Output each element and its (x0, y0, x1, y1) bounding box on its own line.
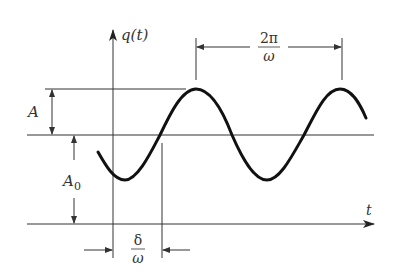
period-numerator: 2π (260, 30, 278, 46)
period-denominator: ω (263, 48, 275, 64)
x-axis-label: t (366, 202, 372, 218)
sinusoid-diagram: q(t) t A A 0 2π ω δ ω (0, 0, 397, 280)
phase-numerator: δ (134, 232, 142, 248)
amplitude-label: A (26, 103, 39, 121)
y-axis-label: q(t) (121, 26, 148, 44)
phase-denominator: ω (132, 250, 144, 266)
offset-label: A (61, 172, 74, 190)
offset-subscript: 0 (74, 180, 81, 193)
